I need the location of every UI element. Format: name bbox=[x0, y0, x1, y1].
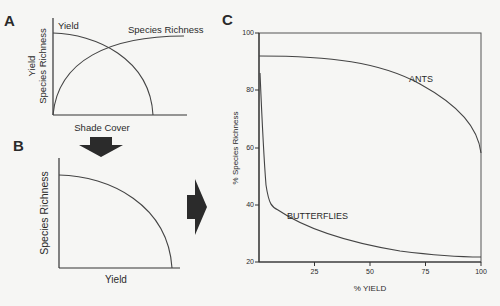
panel-a: A Yield Species Richness Yield Species R… bbox=[4, 12, 204, 133]
y-tick-40: 40 bbox=[246, 201, 254, 208]
panel-a-y-axis-label-line1: Yield bbox=[26, 56, 37, 77]
panel-b: B Species Richness Yield bbox=[13, 137, 180, 285]
panel-b-letter: B bbox=[13, 137, 24, 154]
y-tick-60: 60 bbox=[246, 144, 254, 151]
panel-a-yield-curve bbox=[53, 33, 153, 115]
panel-c-y-axis-label: % Species Richness bbox=[231, 112, 240, 185]
panel-a-x-axis-label: Shade Cover bbox=[74, 122, 129, 133]
panel-c-y-ticks: 100 80 60 40 20 bbox=[242, 29, 259, 265]
panel-c: C 100 80 60 40 20 25 50 75 100 bbox=[222, 11, 487, 293]
panel-c-butterflies-curve bbox=[260, 73, 481, 257]
x-tick-100: 100 bbox=[475, 268, 487, 275]
panel-a-letter: A bbox=[4, 12, 15, 29]
panel-a-species-richness-curve bbox=[53, 36, 184, 115]
panel-c-ants-curve bbox=[259, 56, 481, 153]
panel-a-species-richness-curve-label: Species Richness bbox=[128, 24, 204, 35]
panel-c-ants-label: ANTS bbox=[409, 74, 433, 84]
panel-b-x-axis-label: Yield bbox=[105, 274, 127, 285]
panel-c-butterflies-label: BUTTERFLIES bbox=[287, 211, 348, 221]
y-tick-80: 80 bbox=[246, 86, 254, 93]
panel-c-x-ticks: 25 50 75 100 bbox=[311, 262, 487, 275]
x-tick-50: 50 bbox=[366, 268, 374, 275]
down-arrow-icon bbox=[79, 137, 123, 157]
x-tick-75: 75 bbox=[422, 268, 430, 275]
panel-a-y-axis-label-line2: Species Richness bbox=[37, 28, 48, 104]
panel-c-letter: C bbox=[222, 11, 233, 28]
figure: A Yield Species Richness Yield Species R… bbox=[0, 0, 500, 306]
x-tick-25: 25 bbox=[311, 268, 319, 275]
panel-a-y-axis-label: Yield Species Richness bbox=[26, 28, 48, 104]
right-arrow-icon bbox=[187, 179, 207, 235]
panel-c-plot-frame bbox=[259, 33, 481, 262]
y-tick-100: 100 bbox=[242, 29, 254, 36]
y-tick-20: 20 bbox=[246, 258, 254, 265]
panel-b-tradeoff-curve bbox=[59, 175, 172, 268]
panel-a-yield-curve-label: Yield bbox=[58, 20, 79, 31]
panel-b-y-axis-label: Species Richness bbox=[38, 171, 50, 254]
panel-c-x-axis-label: % YIELD bbox=[354, 284, 387, 293]
